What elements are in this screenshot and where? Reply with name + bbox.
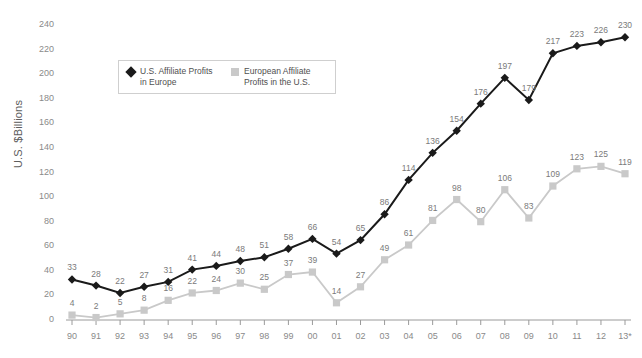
y-axis-tick-label: 60 <box>28 240 54 250</box>
x-axis-tick-label: 06 <box>445 331 469 341</box>
y-axis-tick-label: 80 <box>28 216 54 226</box>
data-point-label: 80 <box>468 205 494 215</box>
data-point-label: 119 <box>612 157 638 167</box>
legend-item-european-affiliate-profits: European Affiliate Profits in the U.S. <box>231 66 310 88</box>
data-point-label: 51 <box>251 240 277 250</box>
y-axis-tick-label: 40 <box>28 265 54 275</box>
x-axis-tick-label: 05 <box>421 331 445 341</box>
x-axis-tick-label: 93 <box>132 331 156 341</box>
y-axis-tick-label: 0 <box>28 314 54 324</box>
x-axis-tick-label: 94 <box>156 331 180 341</box>
data-point-label: 106 <box>492 173 518 183</box>
data-point-label: 48 <box>227 244 253 254</box>
x-axis-tick-label: 91 <box>84 331 108 341</box>
x-axis-tick-label: 01 <box>324 331 348 341</box>
data-point-label: 176 <box>468 87 494 97</box>
chart-container: U.S. $Billions U.S. Affiliate Profits in… <box>0 0 642 358</box>
data-point-label: 136 <box>420 136 446 146</box>
y-axis-tick-label: 160 <box>28 117 54 127</box>
data-point-label: 226 <box>588 25 614 35</box>
x-axis-tick-label: 99 <box>276 331 300 341</box>
legend-item-label: U.S. Affiliate Profits in Europe <box>140 66 213 88</box>
x-axis-tick-label: 13* <box>613 331 637 341</box>
data-point-label: 8 <box>131 293 157 303</box>
data-point-label: 230 <box>612 20 638 30</box>
x-axis-tick-label: 07 <box>469 331 493 341</box>
data-point-label: 123 <box>564 152 590 162</box>
x-axis-tick-label: 03 <box>373 331 397 341</box>
y-axis-tick-label: 220 <box>28 44 54 54</box>
y-axis-tick-label: 100 <box>28 191 54 201</box>
data-point-label: 16 <box>155 283 181 293</box>
y-axis-tick-label: 200 <box>28 68 54 78</box>
data-point-label: 49 <box>372 243 398 253</box>
data-point-label: 22 <box>179 276 205 286</box>
legend-item-label: European Affiliate Profits in the U.S. <box>244 66 310 88</box>
data-point-label: 27 <box>348 270 374 280</box>
data-point-label: 22 <box>107 276 133 286</box>
y-axis-title: U.S. $Billions <box>12 79 24 189</box>
data-point-label: 25 <box>251 272 277 282</box>
data-point-label: 44 <box>203 249 229 259</box>
x-axis-tick-label: 11 <box>565 331 589 341</box>
data-point-label: 28 <box>83 269 109 279</box>
data-point-label: 37 <box>275 258 301 268</box>
x-axis-tick-label: 12 <box>589 331 613 341</box>
x-axis-tick-label: 08 <box>493 331 517 341</box>
x-axis-tick-label: 98 <box>252 331 276 341</box>
data-point-label: 83 <box>516 201 542 211</box>
diamond-marker-icon <box>125 66 136 77</box>
x-axis-tick-label: 00 <box>300 331 324 341</box>
data-point-label: 114 <box>396 163 422 173</box>
y-axis-tick-label: 240 <box>28 19 54 29</box>
data-point-label: 66 <box>299 222 325 232</box>
data-point-label: 14 <box>323 286 349 296</box>
data-point-label: 41 <box>179 253 205 263</box>
data-point-label: 65 <box>348 223 374 233</box>
x-axis-tick-label: 90 <box>60 331 84 341</box>
y-axis-tick-label: 180 <box>28 93 54 103</box>
x-axis-tick-label: 97 <box>228 331 252 341</box>
data-point-label: 30 <box>227 266 253 276</box>
data-point-label: 33 <box>59 262 85 272</box>
x-axis-tick-label: 92 <box>108 331 132 341</box>
data-point-label: 2 <box>83 301 109 311</box>
data-point-label: 58 <box>275 232 301 242</box>
data-point-label: 4 <box>59 298 85 308</box>
y-axis-tick-label: 140 <box>28 142 54 152</box>
data-point-label: 5 <box>107 297 133 307</box>
chart-legend: U.S. Affiliate Profits in Europe Europea… <box>118 60 336 94</box>
data-point-label: 86 <box>372 197 398 207</box>
x-axis-tick-label: 10 <box>541 331 565 341</box>
legend-item-us-affiliate-profits: U.S. Affiliate Profits in Europe <box>127 66 213 88</box>
y-axis-tick-label: 120 <box>28 167 54 177</box>
data-point-label: 27 <box>131 270 157 280</box>
data-point-label: 54 <box>323 237 349 247</box>
data-point-label: 31 <box>155 265 181 275</box>
data-point-label: 217 <box>540 36 566 46</box>
data-point-label: 39 <box>299 255 325 265</box>
x-axis-tick-label: 96 <box>204 331 228 341</box>
square-marker-icon <box>231 68 239 76</box>
data-point-label: 24 <box>203 274 229 284</box>
x-axis-tick-label: 09 <box>517 331 541 341</box>
data-point-label: 179 <box>516 83 542 93</box>
x-axis-tick-label: 95 <box>180 331 204 341</box>
data-point-label: 223 <box>564 29 590 39</box>
y-axis-tick-label: 20 <box>28 289 54 299</box>
data-point-label: 61 <box>396 228 422 238</box>
data-point-label: 109 <box>540 169 566 179</box>
data-point-label: 125 <box>588 149 614 159</box>
x-axis-tick-label: 04 <box>397 331 421 341</box>
data-point-label: 197 <box>492 61 518 71</box>
data-point-label: 81 <box>420 203 446 213</box>
data-point-label: 154 <box>444 114 470 124</box>
data-point-label: 98 <box>444 183 470 193</box>
x-axis-tick-label: 02 <box>349 331 373 341</box>
